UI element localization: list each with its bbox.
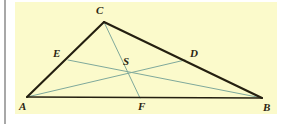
point-label-d: D [190, 48, 198, 59]
point-label-b: B [263, 102, 270, 113]
point-label-e: E [53, 48, 60, 59]
point-label-s: S [123, 56, 129, 67]
side-AB [27, 97, 262, 98]
point-label-a: A [19, 101, 26, 112]
point-label-c: C [96, 5, 103, 16]
point-label-f: F [138, 101, 145, 112]
cevian-CF [104, 22, 140, 98]
side-AC [27, 22, 104, 97]
triangle-sides-group [27, 22, 262, 98]
cevian-BE [68, 60, 262, 98]
cevian-lines-group [27, 22, 262, 98]
geometry-figure-screenshot: ABCDEFS [0, 0, 283, 124]
